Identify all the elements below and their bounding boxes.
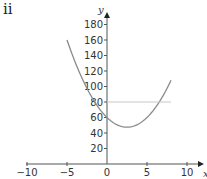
y-tick-label: 20 <box>90 143 103 154</box>
y-tick-label: 60 <box>90 112 103 123</box>
y-tick-label: 100 <box>84 81 103 92</box>
y-tick-label: 160 <box>84 35 103 46</box>
x-tick-label: 10 <box>181 167 194 178</box>
chart-series <box>67 40 171 127</box>
y-tick-label: 120 <box>84 66 103 77</box>
x-tick-label: −5 <box>60 167 75 178</box>
y-axis-label: y <box>97 4 104 15</box>
parabola-curve <box>67 40 171 127</box>
x-tick-label: −10 <box>16 167 37 178</box>
x-axis-label: x <box>203 168 207 179</box>
x-tick-label: 5 <box>144 167 150 178</box>
parabola-chart: xy −10−5051020406080100120140160180 <box>0 0 207 179</box>
x-axis-arrow-icon <box>198 161 204 167</box>
y-tick-label: 180 <box>84 19 103 30</box>
x-tick-label: 0 <box>104 167 110 178</box>
axes: xy <box>26 4 207 179</box>
y-tick-label: 140 <box>84 50 103 61</box>
y-axis-arrow-icon <box>104 12 110 18</box>
y-tick-label: 40 <box>90 128 103 139</box>
tick-marks: −10−5051020406080100120140160180 <box>16 19 193 178</box>
